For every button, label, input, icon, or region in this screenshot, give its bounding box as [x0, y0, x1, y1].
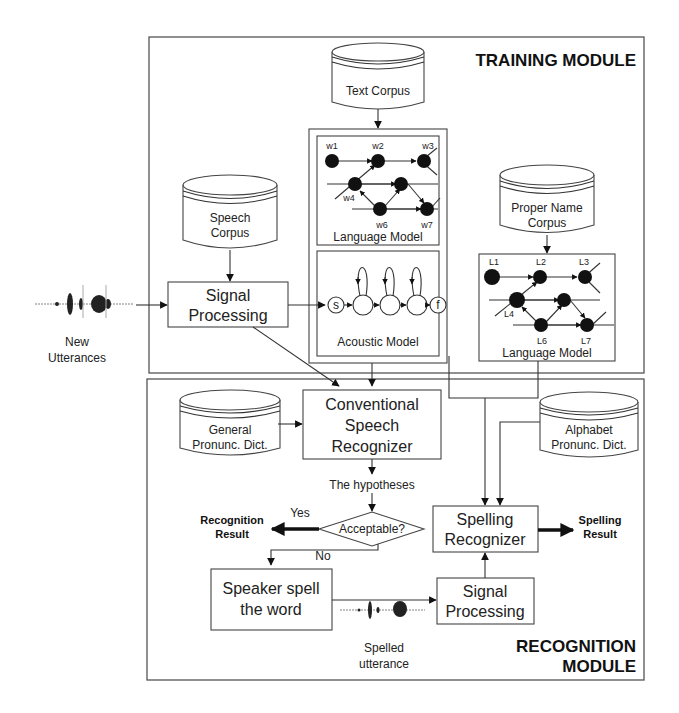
svg-text:Recognizer: Recognizer	[332, 438, 414, 455]
general-pronunc-dict-database: General Pronunc. Dict.	[180, 390, 280, 455]
no-label: No	[315, 549, 331, 563]
new-utterances-waveform	[35, 285, 133, 318]
signal-processing-recognition-box: Signal Processing	[437, 578, 534, 624]
svg-text:Corpus: Corpus	[211, 226, 250, 240]
svg-text:Pronunc. Dict.: Pronunc. Dict.	[192, 438, 267, 452]
recognition-result-label-2: Result	[215, 528, 249, 540]
svg-text:w2: w2	[371, 141, 384, 151]
new-utterances-label-2: Utterances	[48, 351, 106, 365]
speaker-spell-box: Speaker spell the word	[211, 569, 332, 630]
svg-text:Processing: Processing	[188, 307, 267, 324]
spelling-recognizer-box: Spelling Recognizer	[433, 506, 538, 552]
spelling-result-label-2: Result	[583, 528, 617, 540]
recognition-result-label-1: Recognition	[200, 514, 264, 526]
svg-text:w7: w7	[420, 220, 433, 230]
spelled-utterance-label-1: Spelled	[364, 641, 404, 655]
svg-text:Text Corpus: Text Corpus	[346, 84, 410, 98]
arrow-alphabet-to-spelling	[500, 422, 540, 505]
conventional-speech-recognizer-box: Conventional Speech Recognizer	[303, 390, 441, 459]
alphabet-pronunc-dict-database: Alphabet Pronunc. Dict.	[540, 392, 638, 457]
letter-language-model-label: Language Model	[502, 346, 591, 360]
svg-text:Alphabet: Alphabet	[565, 423, 613, 437]
acoustic-final-state-node: f	[430, 297, 446, 313]
svg-text:L2: L2	[536, 257, 546, 267]
word-language-model: w1 w2 w3 w4 w6 w7 Language Model	[317, 136, 440, 245]
letter-language-model: L1 L2 L3 L4 L6 L7 Language Model	[479, 254, 615, 361]
svg-text:Proper Name: Proper Name	[511, 201, 583, 215]
svg-text:Speech: Speech	[345, 417, 399, 434]
recognition-module-title-line1: RECOGNITION	[516, 637, 636, 656]
svg-text:w6: w6	[375, 220, 388, 230]
text-corpus-database: Text Corpus	[332, 43, 424, 109]
svg-text:L7: L7	[581, 336, 591, 346]
yes-label: Yes	[290, 506, 310, 520]
acoustic-model-label: Acoustic Model	[337, 335, 418, 349]
signal-processing-training-box: Signal Processing	[168, 282, 288, 327]
svg-text:L6: L6	[537, 336, 547, 346]
svg-text:w3: w3	[421, 141, 434, 151]
svg-text:Signal: Signal	[463, 583, 507, 600]
svg-text:L3: L3	[579, 257, 589, 267]
svg-text:Pronunc. Dict.: Pronunc. Dict.	[551, 438, 626, 452]
svg-text:Speech: Speech	[210, 211, 251, 225]
svg-text:L4: L4	[504, 309, 514, 319]
svg-text:s: s	[333, 298, 339, 312]
svg-text:Spelling: Spelling	[457, 511, 514, 528]
new-utterances-label-1: New	[65, 335, 89, 349]
spelled-utterance-label-2: utterance	[359, 657, 409, 671]
speech-recognition-system-diagram: TRAINING MODULE RECOGNITION MODULE Text …	[0, 0, 679, 713]
acceptable-decision: Acceptable? Yes No	[290, 506, 424, 563]
svg-text:Signal: Signal	[206, 287, 250, 304]
training-module-title: TRAINING MODULE	[475, 51, 636, 70]
spelling-result-label-1: Spelling	[579, 514, 622, 526]
proper-name-corpus-database: Proper Name Corpus	[500, 165, 594, 233]
svg-text:the word: the word	[240, 601, 301, 618]
svg-text:Corpus: Corpus	[528, 216, 567, 230]
speech-corpus-database: Speech Corpus	[183, 175, 277, 248]
svg-text:General: General	[209, 423, 252, 437]
svg-text:Recognizer: Recognizer	[445, 531, 527, 548]
word-language-model-label: Language Model	[333, 230, 422, 244]
svg-text:w1: w1	[325, 141, 338, 151]
spelled-utterance-waveform	[340, 601, 425, 619]
connector-lm-loop	[449, 356, 538, 398]
svg-text:Acceptable?: Acceptable?	[339, 522, 405, 536]
svg-text:w4: w4	[342, 193, 355, 203]
recognition-module-title-line2: MODULE	[562, 657, 636, 676]
svg-text:Conventional: Conventional	[325, 396, 418, 413]
svg-text:Speaker spell: Speaker spell	[223, 580, 320, 597]
svg-text:L1: L1	[489, 257, 499, 267]
hypotheses-label: The hypotheses	[329, 478, 414, 492]
svg-text:Processing: Processing	[445, 603, 524, 620]
acoustic-model: s Acoustic Model	[317, 251, 439, 356]
